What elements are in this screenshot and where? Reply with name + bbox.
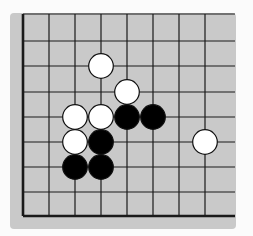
black-stone[interactable] bbox=[141, 105, 166, 130]
go-board[interactable] bbox=[0, 0, 253, 236]
black-stone[interactable] bbox=[63, 155, 88, 180]
black-stone[interactable] bbox=[89, 155, 114, 180]
white-stone[interactable] bbox=[115, 80, 140, 105]
white-stone[interactable] bbox=[63, 105, 88, 130]
black-stone[interactable] bbox=[89, 130, 114, 155]
black-stone[interactable] bbox=[115, 105, 140, 130]
page bbox=[0, 0, 253, 236]
white-stone[interactable] bbox=[63, 130, 88, 155]
white-stone[interactable] bbox=[89, 54, 114, 79]
white-stone[interactable] bbox=[89, 105, 114, 130]
white-stone[interactable] bbox=[193, 130, 218, 155]
